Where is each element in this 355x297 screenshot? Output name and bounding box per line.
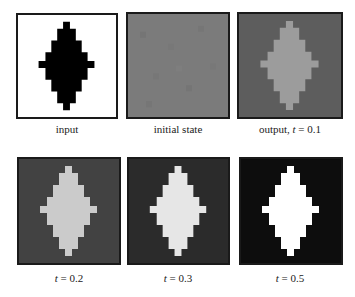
caption-output-t01: output, t = 0.1: [230, 123, 350, 135]
diamond-shape-t01: [239, 14, 341, 117]
noise-field: [128, 14, 228, 117]
image-t03: [127, 157, 230, 265]
diamond-shape-t03: [129, 159, 228, 263]
image-input: [16, 13, 118, 119]
caption-input: input: [7, 123, 127, 135]
caption-t05: t = 0.5: [230, 272, 350, 284]
caption-initial-state: initial state: [118, 123, 238, 135]
image-t05: [239, 157, 343, 265]
diamond-shape-t02: [19, 159, 119, 263]
caption-value: = 0.1: [296, 123, 321, 135]
caption-value: = 0.5: [279, 272, 304, 284]
caption-prefix: output,: [259, 123, 293, 135]
image-t02: [17, 157, 121, 265]
caption-t03: t = 0.3: [118, 272, 238, 284]
caption-text: initial state: [154, 123, 203, 135]
caption-value: = 0.2: [58, 272, 83, 284]
caption-text: input: [56, 123, 79, 135]
caption-t02: t = 0.2: [9, 272, 129, 284]
caption-value: = 0.3: [167, 272, 192, 284]
diamond-shape-input: [18, 15, 116, 117]
image-initial-state: [126, 12, 230, 119]
diamond-shape-t05: [241, 159, 341, 263]
image-output-t01: [237, 12, 343, 119]
